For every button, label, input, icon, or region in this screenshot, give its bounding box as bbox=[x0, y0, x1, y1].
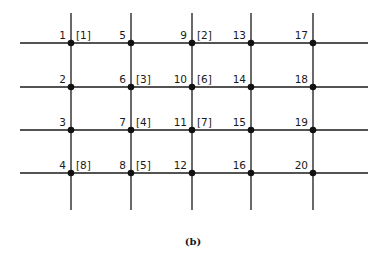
node-label: 11 bbox=[174, 116, 187, 128]
node-label: 6 bbox=[119, 73, 126, 85]
element-label: [8] bbox=[76, 159, 91, 171]
node-11 bbox=[189, 127, 196, 134]
node-labels: 1234567891011121314151617181920 bbox=[59, 29, 308, 171]
node-label: 19 bbox=[295, 116, 308, 128]
node-label: 13 bbox=[233, 29, 246, 41]
node-label: 16 bbox=[233, 159, 247, 171]
node-14 bbox=[248, 84, 255, 91]
element-label: [1] bbox=[76, 29, 91, 41]
node-12 bbox=[189, 170, 196, 177]
node-label: 18 bbox=[295, 73, 308, 85]
node-label: 15 bbox=[233, 116, 246, 128]
element-label: [4] bbox=[136, 116, 151, 128]
horizontal-lines bbox=[20, 43, 368, 173]
element-label: [2] bbox=[197, 29, 212, 41]
node-label: 17 bbox=[295, 29, 308, 41]
node-4 bbox=[68, 170, 75, 177]
node-16 bbox=[248, 170, 255, 177]
node-17 bbox=[310, 40, 317, 47]
node-label: 14 bbox=[233, 73, 247, 85]
element-label: [6] bbox=[197, 73, 212, 85]
grid-diagram: 1234567891011121314151617181920 [1][2][3… bbox=[0, 0, 384, 258]
node-label: 3 bbox=[59, 116, 66, 128]
node-3 bbox=[68, 127, 75, 134]
node-8 bbox=[128, 170, 135, 177]
node-9 bbox=[189, 40, 196, 47]
node-6 bbox=[128, 84, 135, 91]
node-label: 4 bbox=[59, 159, 66, 171]
element-label: [3] bbox=[136, 73, 151, 85]
figure-caption: (b) bbox=[185, 236, 201, 247]
node-label: 7 bbox=[119, 116, 126, 128]
element-label: [5] bbox=[136, 159, 151, 171]
element-label: [7] bbox=[197, 116, 212, 128]
node-1 bbox=[68, 40, 75, 47]
node-20 bbox=[310, 170, 317, 177]
node-5 bbox=[128, 40, 135, 47]
node-18 bbox=[310, 84, 317, 91]
node-label: 1 bbox=[59, 29, 66, 41]
node-label: 10 bbox=[174, 73, 187, 85]
node-2 bbox=[68, 84, 75, 91]
node-13 bbox=[248, 40, 255, 47]
node-label: 8 bbox=[119, 159, 126, 171]
node-label: 20 bbox=[295, 159, 308, 171]
node-label: 2 bbox=[59, 73, 66, 85]
node-label: 5 bbox=[119, 29, 126, 41]
node-label: 12 bbox=[174, 159, 187, 171]
node-19 bbox=[310, 127, 317, 134]
node-15 bbox=[248, 127, 255, 134]
node-7 bbox=[128, 127, 135, 134]
node-10 bbox=[189, 84, 196, 91]
node-label: 9 bbox=[180, 29, 187, 41]
